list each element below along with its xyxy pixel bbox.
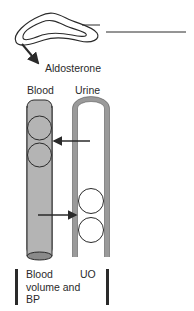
gland-to-hormone-arrow [22,44,38,63]
blood-volume-bp-label: Blood volume and BP [26,268,86,306]
circle-particle-icon [28,116,52,140]
circle-particle-icon [28,143,52,167]
adrenal-gland-icon [15,13,98,45]
circle-particle-icon [79,218,104,243]
circle-particle-icon [79,189,104,214]
decrease-bar-urine [106,269,109,305]
decrease-bar-blood [15,269,18,305]
urine-output-label: UO [80,268,96,281]
blood-column-label: Blood [27,84,54,97]
aldosterone-diagram [0,0,194,311]
urine-column-label: Urine [75,84,100,97]
aldosterone-label: Aldosterone [45,62,101,75]
